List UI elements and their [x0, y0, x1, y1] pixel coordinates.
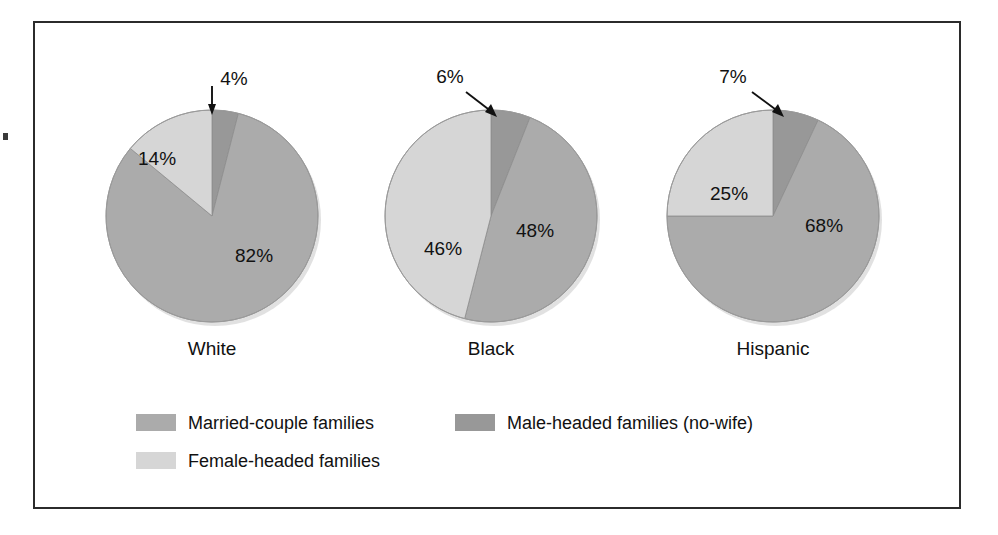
pie-chart-black: 48%46%6%Black	[385, 66, 600, 359]
pie-charts-svg: 82%14%4%White48%46%6%Black68%25%7%Hispan…	[0, 0, 998, 535]
pie-category-label-white: White	[188, 338, 237, 359]
pies-layer: 82%14%4%White48%46%6%Black68%25%7%Hispan…	[106, 66, 882, 359]
pie-black-male-headed-callout-text: 6%	[436, 66, 464, 87]
pie-category-label-black: Black	[468, 338, 515, 359]
pie-white-married-pct: 82%	[235, 245, 273, 266]
pie-chart-hispanic: 68%25%7%Hispanic	[667, 66, 882, 359]
pie-hispanic-married-pct: 68%	[805, 215, 843, 236]
legend-swatch-male-headed	[455, 414, 495, 431]
legend-label-married: Married-couple families	[188, 413, 374, 433]
pie-black-female-headed-pct: 46%	[424, 238, 462, 259]
pie-white-female-headed-pct: 14%	[138, 148, 176, 169]
pie-hispanic-male-headed-callout-text: 7%	[719, 66, 747, 87]
legend-item-male-headed[interactable]: Male-headed families (no-wife)	[455, 413, 753, 433]
legend-layer: Married-couple familiesMale-headed famil…	[136, 413, 753, 471]
legend-label-male-headed: Male-headed families (no-wife)	[507, 413, 753, 433]
legend-swatch-married	[136, 414, 176, 431]
legend-label-female-headed: Female-headed families	[188, 451, 380, 471]
pie-white-male-headed-callout-text: 4%	[220, 68, 248, 89]
figure-root: 82%14%4%White48%46%6%Black68%25%7%Hispan…	[0, 0, 998, 535]
legend-swatch-female-headed	[136, 452, 176, 469]
pie-category-label-hispanic: Hispanic	[737, 338, 810, 359]
legend-item-female-headed[interactable]: Female-headed families	[136, 451, 380, 471]
pie-black-married-pct: 48%	[516, 220, 554, 241]
pie-hispanic-female-headed-pct: 25%	[710, 183, 748, 204]
legend-item-married[interactable]: Married-couple families	[136, 413, 374, 433]
pie-chart-white: 82%14%4%White	[106, 68, 321, 359]
